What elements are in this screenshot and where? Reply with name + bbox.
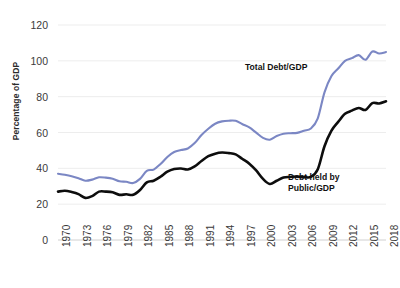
x-tick-label: 1979 [124, 225, 134, 247]
y-tick-label: 120 [14, 20, 48, 30]
x-tick-label: 2012 [349, 225, 359, 247]
x-tick-label: 2009 [329, 225, 339, 247]
public-debt-series-label: Debt held by Public/GDP [288, 172, 340, 194]
y-tick-label: 80 [14, 92, 48, 102]
x-tick-label: 2006 [308, 225, 318, 247]
x-tick-label: 1988 [185, 225, 195, 247]
x-tick-label: 1991 [206, 225, 216, 247]
x-tick-label: 1976 [103, 225, 113, 247]
y-tick-label: 20 [14, 199, 48, 209]
x-tick-label: 1994 [226, 225, 236, 247]
total-debt-series-label: Total Debt/GDP [245, 62, 307, 73]
x-tick-label: 1970 [62, 225, 72, 247]
x-tick-label: 2018 [390, 225, 400, 247]
gridlines [58, 25, 386, 240]
x-tick-label: 2015 [370, 225, 380, 247]
x-tick-label: 1982 [144, 225, 154, 247]
x-tick-label: 2000 [267, 225, 277, 247]
x-tick-label: 1997 [247, 225, 257, 247]
x-tick-label: 2003 [288, 225, 298, 247]
y-tick-label: 100 [14, 56, 48, 66]
series-line [58, 51, 386, 183]
x-tick-label: 1985 [165, 225, 175, 247]
y-tick-label: 0 [14, 235, 48, 245]
y-tick-label: 60 [14, 128, 48, 138]
y-tick-label: 40 [14, 163, 48, 173]
x-tick-label: 1973 [83, 225, 93, 247]
